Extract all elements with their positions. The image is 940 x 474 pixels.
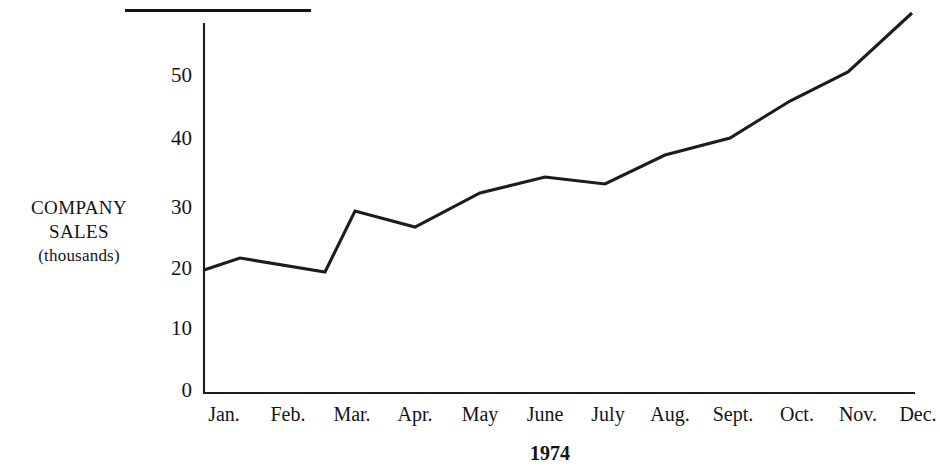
x-tick-label-dec: Dec. <box>878 403 940 426</box>
x-axis-title: 1974 <box>510 442 590 465</box>
chart-axes <box>204 23 915 393</box>
sales-data-line <box>204 13 912 272</box>
